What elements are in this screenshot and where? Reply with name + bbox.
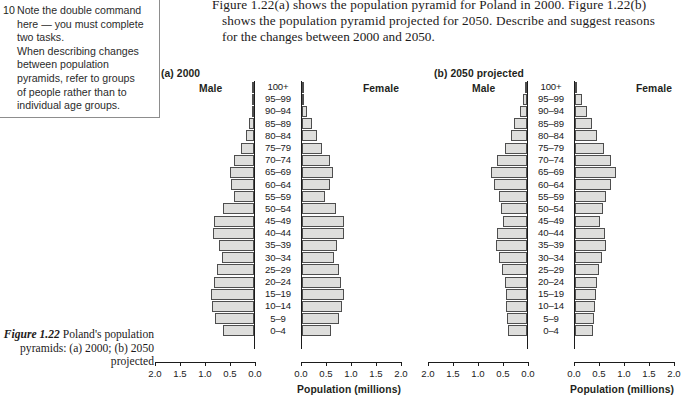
bar-male — [511, 130, 527, 141]
axis-tick-label: 2.0 — [667, 368, 680, 379]
bar-male — [496, 240, 527, 251]
bar-row-female — [575, 130, 674, 142]
bar-male — [213, 228, 254, 239]
axis-tick — [230, 362, 231, 366]
age-band-label: 75–79 — [528, 142, 574, 154]
bar-female — [302, 143, 322, 154]
axis-tick-label: 0.5 — [496, 368, 509, 379]
age-band-label: 10–14 — [528, 300, 574, 312]
bar-male — [520, 106, 527, 117]
age-band-label: 5–9 — [255, 313, 301, 325]
bar-row-female — [302, 288, 401, 300]
bar-row-female — [575, 154, 674, 166]
bar-female — [302, 325, 331, 336]
bar-male — [234, 155, 254, 166]
bar-female — [575, 179, 611, 190]
bar-female — [575, 228, 605, 239]
bar-row-male — [155, 313, 254, 325]
margin-note-line: Note the double command — [17, 4, 157, 18]
bar-female — [575, 130, 597, 141]
bar-row-female — [575, 252, 674, 264]
axis-tick-label: 0.5 — [223, 368, 236, 379]
bar-row-male — [428, 325, 527, 337]
bar-male — [222, 252, 254, 263]
bar-row-female — [575, 105, 674, 117]
axis-tick — [351, 362, 352, 366]
axis-tick-label: 1.5 — [446, 368, 459, 379]
age-band-label: 70–74 — [528, 154, 574, 166]
bar-male — [505, 143, 527, 154]
age-band-label: 70–74 — [255, 154, 301, 166]
bar-female — [575, 216, 600, 227]
axis-tick-label: 0.0 — [294, 368, 307, 379]
bar-row-male — [428, 166, 527, 178]
bar-row-male — [428, 252, 527, 264]
age-band-label: 85–89 — [255, 118, 301, 130]
bar-row-female — [575, 203, 674, 215]
margin-note-line: individual age groups. — [17, 99, 157, 113]
question-line: for the changes between 2000 and 2050. — [212, 29, 664, 45]
bar-row-male — [428, 276, 527, 288]
bar-female — [302, 191, 325, 202]
question-text: Figure 1.22(a) shows the population pyra… — [212, 0, 664, 46]
bar-female — [575, 264, 599, 275]
bar-male — [219, 240, 254, 251]
bar-male — [507, 313, 527, 324]
age-band-column-a: 100+95–9990–9485–8980–8475–7970–7465–696… — [254, 81, 302, 349]
tick-labels-female-a: 0.00.51.01.52.0 — [301, 368, 401, 382]
axis-tick-label: 0.5 — [319, 368, 332, 379]
age-band-label: 25–29 — [528, 264, 574, 276]
bar-female — [302, 240, 337, 251]
bar-row-female — [575, 179, 674, 191]
axis-tick — [301, 362, 302, 366]
bar-row-male — [155, 325, 254, 337]
age-band-label: 95–99 — [528, 93, 574, 105]
age-band-label: 100+ — [528, 81, 574, 93]
bar-row-female — [302, 300, 401, 312]
axis-male-b — [428, 362, 528, 363]
bar-male — [502, 264, 527, 275]
age-band-label: 45–49 — [528, 215, 574, 227]
bar-female — [575, 167, 616, 178]
age-band-label: 30–34 — [255, 252, 301, 264]
bar-row-female — [302, 227, 401, 239]
bar-female — [302, 228, 344, 239]
bar-female — [302, 179, 330, 190]
bar-row-female — [575, 276, 674, 288]
axis-tick-label: 0.0 — [567, 368, 580, 379]
margin-note-line: pyramids, refer to groups — [17, 72, 157, 86]
bar-male — [505, 277, 527, 288]
bar-male — [494, 179, 527, 190]
bar-female — [302, 167, 333, 178]
bar-row-female — [302, 105, 401, 117]
bar-row-male — [155, 166, 254, 178]
bar-row-female — [302, 130, 401, 142]
axis-tick — [503, 362, 504, 366]
age-band-column-b: 100+95–9990–9485–8980–8475–7970–7465–696… — [527, 81, 575, 349]
bar-row-male — [155, 276, 254, 288]
axis-tick-label: 0.0 — [248, 368, 261, 379]
female-bars-a — [302, 81, 401, 349]
bar-male — [214, 277, 254, 288]
bar-female — [302, 82, 304, 93]
age-band-label: 60–64 — [528, 179, 574, 191]
bar-row-male — [428, 313, 527, 325]
axis-tick — [255, 362, 256, 366]
bar-male — [214, 216, 254, 227]
tick-labels-male-a: 2.01.51.00.50.0 — [155, 368, 255, 382]
bar-row-female — [575, 227, 674, 239]
bar-female — [575, 277, 597, 288]
axis-tick — [376, 362, 377, 366]
bar-male — [241, 143, 254, 154]
age-band-label: 50–54 — [528, 203, 574, 215]
age-band-label: 15–19 — [255, 288, 301, 300]
margin-note-number: 10 — [3, 4, 15, 18]
bar-row-female — [302, 166, 401, 178]
bar-female — [302, 252, 334, 263]
age-band-label: 100+ — [255, 81, 301, 93]
bar-male — [230, 167, 254, 178]
axis-male-a — [155, 362, 255, 363]
bar-female — [575, 118, 592, 129]
axis-female-a — [301, 362, 401, 363]
bar-row-male — [155, 179, 254, 191]
